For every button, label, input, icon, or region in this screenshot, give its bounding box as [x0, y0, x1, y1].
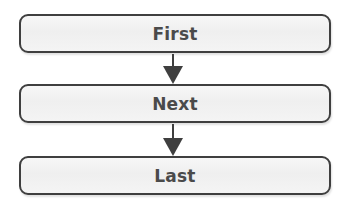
node-label: Next [152, 94, 198, 114]
arrow-down-icon [163, 66, 183, 84]
flow-node-last: Last [19, 156, 331, 195]
node-label: First [152, 24, 197, 44]
arrow-first-to-next [163, 54, 183, 84]
flow-node-next: Next [19, 84, 331, 123]
node-label: Last [154, 166, 195, 186]
arrow-down-icon [163, 138, 183, 156]
flow-node-first: First [19, 14, 331, 53]
arrow-next-to-last [163, 124, 183, 156]
